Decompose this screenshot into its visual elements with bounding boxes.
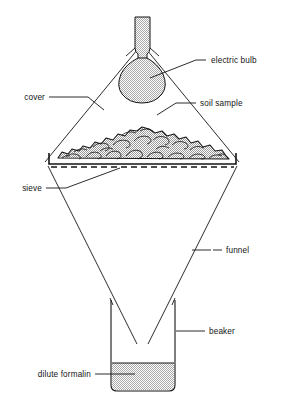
label-dilute-formalin: dilute formalin (38, 370, 92, 379)
label-cover: cover (24, 93, 45, 102)
label-funnel: funnel (226, 246, 249, 255)
leader-lines (46, 60, 222, 374)
dilute-formalin (112, 363, 174, 390)
label-sieve: sieve (22, 184, 42, 193)
label-soil-sample: soil sample (200, 99, 243, 108)
funnel (48, 166, 237, 344)
label-electric-bulb: electric bulb (211, 56, 257, 65)
label-beaker: beaker (209, 327, 235, 336)
apparatus-diagram: electric bulb cover soil sample sieve fu… (0, 0, 284, 405)
soil-sample (58, 127, 229, 159)
electric-bulb (119, 17, 166, 103)
